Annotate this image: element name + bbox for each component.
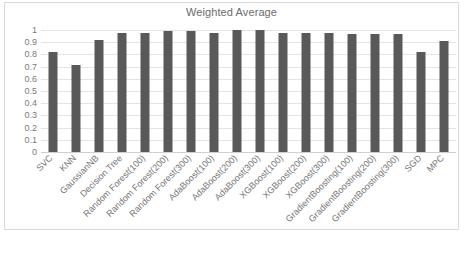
y-axis-tick-label: 0.1 [24,135,37,145]
bar-slot [87,30,110,152]
bar-slot [202,30,225,152]
bar[interactable] [186,31,195,152]
bar[interactable] [440,41,449,152]
bar[interactable] [94,40,103,152]
x-axis-tick-label: MPC [425,153,446,174]
y-axis-tick-label: 0.8 [24,49,37,59]
y-axis-tick-label: 0.3 [24,110,37,120]
bar-slot [64,30,87,152]
bar[interactable] [71,65,80,152]
x-axis-label-slot: MPC [428,152,451,252]
bar-slot [364,30,387,152]
x-axis-tick-label: SVC [34,153,54,173]
y-axis-tick-label: 0.2 [24,123,37,133]
x-axis-label-slot: SVC [36,152,59,252]
bar[interactable] [279,33,288,152]
bar-slot [110,30,133,152]
bar-slot [249,30,272,152]
bar[interactable] [371,34,380,152]
bar[interactable] [302,33,311,152]
bar-slot [133,30,156,152]
bar-slot [295,30,318,152]
x-axis-tick-label: SGD [403,153,424,174]
x-axis-label-slot: GradientBoosting(300) [382,152,405,252]
bar[interactable] [140,33,149,152]
bar[interactable] [394,34,403,152]
chart-screenshot: { "chart_data": { "type": "bar", "title"… [0,0,464,257]
bar[interactable] [348,34,357,152]
bar-slot [341,30,364,152]
bar-slot [272,30,295,152]
bar-slot [318,30,341,152]
bar[interactable] [163,31,172,152]
bar[interactable] [256,30,265,152]
bar-slot [179,30,202,152]
y-axis-tick-label: 0.6 [24,74,37,84]
bar-series [41,30,456,152]
bar-slot [410,30,433,152]
bar-slot [156,30,179,152]
chart-title: Weighted Average [5,6,458,18]
bar-slot [225,30,248,152]
y-axis-tick-label: 0.4 [24,98,37,108]
bar[interactable] [209,33,218,152]
bar-slot [387,30,410,152]
bar[interactable] [325,33,334,152]
bar[interactable] [48,52,57,152]
bar-slot [41,30,64,152]
bar-slot [433,30,456,152]
plot-area: 10.90.80.70.60.50.40.30.20.10 [41,30,456,152]
bar[interactable] [232,30,241,152]
bar[interactable] [117,33,126,152]
y-axis-tick-label: 0.9 [24,37,37,47]
x-axis-tick-labels: SVCKNNGaussianNBDecision TreeRandom Fore… [36,152,451,252]
bar[interactable] [417,52,426,152]
y-axis-tick-label: 0.7 [24,62,37,72]
y-axis-tick-label: 1 [32,25,37,35]
y-axis-tick-label: 0.5 [24,86,37,96]
